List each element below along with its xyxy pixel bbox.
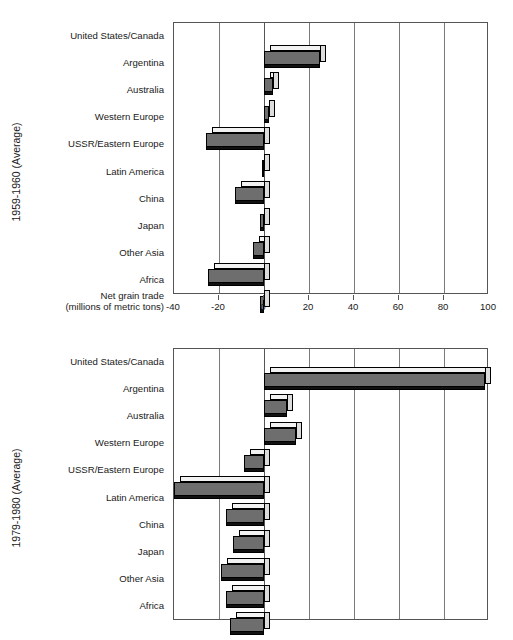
x-tick-label: 0: [243, 301, 283, 312]
bar-shadow-face: [226, 522, 264, 526]
bar-side-face: [264, 236, 270, 253]
bar-shadow-face: [262, 173, 264, 177]
category-label: Western Europe: [95, 437, 164, 448]
bar: [208, 269, 264, 286]
bar-shadow-face: [264, 386, 485, 390]
category-label: USSR/Eastern Europe: [68, 464, 164, 475]
bar-shadow-face: [174, 495, 264, 499]
bar: [221, 564, 264, 581]
bar-side-face: [264, 449, 270, 466]
x-tick-label: 60: [378, 301, 418, 312]
x-caption-line-1: Net grain trade: [0, 290, 168, 301]
chart-panel-1979-1980: 1979-1980 (Average) United States/Canada…: [0, 330, 513, 640]
x-tick-40: [353, 295, 354, 300]
x-tick-0: [263, 295, 264, 300]
bar-shadow-face: [264, 413, 287, 417]
category-label: USSR/Eastern Europe: [68, 138, 164, 149]
bar: [264, 78, 273, 95]
bar: [264, 51, 320, 68]
gridline-60: [399, 23, 400, 293]
bar: [174, 482, 264, 499]
bar-side-face: [264, 585, 270, 602]
bar: [264, 428, 296, 445]
bar: [206, 133, 265, 150]
bar-shadow-face: [260, 227, 265, 231]
bar-side-face: [264, 476, 270, 493]
panel-2-y-axis-title: 1979-1980 (Average): [10, 398, 22, 598]
x-tick-60: [398, 295, 399, 300]
bar: [230, 618, 264, 635]
bar: [260, 214, 265, 231]
bar-side-face: [264, 154, 270, 171]
category-label: China: [139, 519, 164, 530]
panel-2-plot-area: [173, 348, 488, 620]
category-label: Japan: [138, 220, 164, 231]
bar-shadow-face: [221, 577, 264, 581]
grain-trade-figure: 1959-1960 (Average) United States/Canada…: [0, 0, 513, 640]
bar-side-face: [264, 530, 270, 547]
bar-side-face: [269, 100, 275, 117]
bar-shadow-face: [206, 146, 265, 150]
category-label: Africa: [139, 274, 164, 285]
bar: [226, 591, 264, 608]
category-label: United States/Canada: [70, 30, 164, 41]
bar-shadow-face: [244, 468, 264, 472]
x-tick-label: 80: [423, 301, 463, 312]
category-label: Australia: [127, 410, 164, 421]
panel-1-x-axis-caption: Net grain trade (millions of metric tons…: [0, 290, 168, 312]
bar-side-face: [264, 208, 270, 225]
category-label: United States/Canada: [70, 356, 164, 367]
category-label: Other Asia: [119, 573, 164, 584]
category-label: Other Asia: [119, 247, 164, 258]
category-label: Argentina: [123, 383, 164, 394]
x-tick-20: [308, 295, 309, 300]
gridline--20: [219, 23, 220, 293]
bar-side-face: [320, 45, 326, 62]
x-tick-label: -20: [198, 301, 238, 312]
x-caption-line-2: (millions of metric tons): [0, 301, 168, 312]
x-tick-label: 20: [288, 301, 328, 312]
chart-panel-1959-1960: 1959-1960 (Average) United States/Canada…: [0, 0, 513, 330]
x-tick-label: 100: [468, 301, 508, 312]
bar-shadow-face: [235, 200, 264, 204]
x-tick--20: [218, 295, 219, 300]
gridline-40: [354, 23, 355, 293]
bar: [262, 160, 264, 177]
bar-side-face: [264, 263, 270, 280]
panel-1-y-axis-title: 1959-1960 (Average): [10, 72, 22, 272]
bar: [264, 400, 287, 417]
category-label: Latin America: [106, 166, 164, 177]
x-tick-label: 40: [333, 301, 373, 312]
bar: [264, 106, 269, 123]
bar-side-face: [296, 422, 302, 439]
category-label: Africa: [139, 600, 164, 611]
bar-side-face: [264, 612, 270, 629]
bar-shadow-face: [226, 604, 264, 608]
bar: [264, 373, 485, 390]
category-label: Latin America: [106, 492, 164, 503]
bar-side-face: [264, 127, 270, 144]
bar-shadow-face: [230, 631, 264, 635]
panel-1-plot-area: [173, 22, 488, 294]
bar: [244, 455, 264, 472]
bar: [235, 187, 264, 204]
bar-side-face: [273, 72, 279, 89]
x-tick-80: [443, 295, 444, 300]
bar: [233, 536, 265, 553]
bar-shadow-face: [233, 549, 265, 553]
bar-shadow-face: [264, 91, 273, 95]
bar-side-face: [264, 503, 270, 520]
bar-side-face: [485, 367, 491, 384]
bar: [253, 242, 264, 259]
category-label: Japan: [138, 546, 164, 557]
gridline-80: [444, 23, 445, 293]
bar-shadow-face: [208, 282, 264, 286]
bar-shadow-face: [264, 441, 296, 445]
bar-side-face: [287, 394, 293, 411]
category-label: Argentina: [123, 57, 164, 68]
bar-side-face: [264, 181, 270, 198]
category-label: China: [139, 193, 164, 204]
bar-side-face: [264, 558, 270, 575]
bar-shadow-face: [253, 255, 264, 259]
category-label: Australia: [127, 84, 164, 95]
